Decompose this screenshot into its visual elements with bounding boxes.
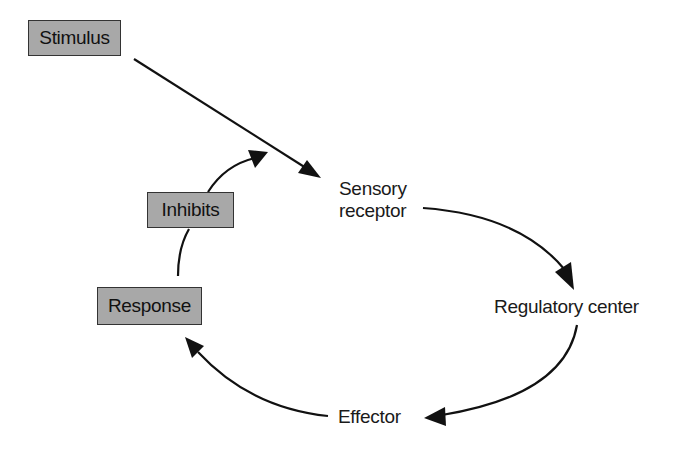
response-label: Response [108,295,191,317]
arrowhead-icon [555,262,574,290]
feedback-loop-arrows [0,0,693,456]
response-box: Response [97,287,202,325]
regulatory-to-effector-arrow [424,325,577,426]
sensory-receptor-line1: Sensory [339,178,407,200]
arrowhead-icon [298,160,321,178]
sensory-to-regulatory-arrow [423,208,574,290]
inhibits-to-stimulus-arrow [208,150,268,192]
stimulus-label: Stimulus [39,27,109,49]
arrowhead-icon [424,407,446,426]
stimulus-to-sensory-arrow [134,59,321,178]
inhibits-box: Inhibits [147,192,234,228]
response-to-inhibits-line [178,229,189,276]
inhibits-label: Inhibits [162,199,220,221]
effector-node: Effector [338,406,401,428]
effector-to-response-arrow [185,337,328,416]
regulatory-center-node: Regulatory center [494,296,639,318]
sensory-receptor-line2: receptor [339,200,407,222]
stimulus-box: Stimulus [28,20,121,56]
sensory-receptor-node: Sensory receptor [339,178,407,222]
